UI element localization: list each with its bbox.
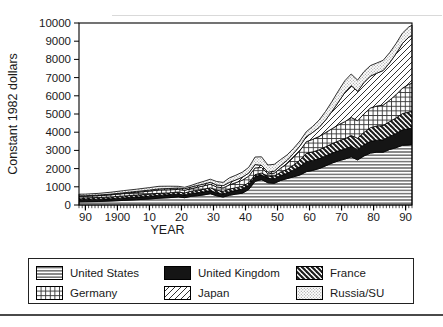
legend-label: United States — [70, 266, 139, 280]
bottom-rule-line — [0, 314, 443, 316]
y-tick-label: 0 — [65, 199, 71, 211]
x-tick-label: 90 — [79, 211, 92, 223]
legend-swatch — [36, 266, 63, 280]
y-tick-label: 9000 — [45, 35, 71, 47]
legend-item-japan: Japan — [164, 285, 229, 301]
legend-item-russia-su: Russia/SU — [296, 285, 384, 301]
figure: 0100020003000400050006000700080009000100… — [0, 0, 443, 327]
x-tick-label: 1900 — [105, 211, 131, 223]
y-tick-label: 6000 — [45, 90, 71, 102]
legend-item-france: France — [296, 265, 366, 281]
legend-label: Japan — [198, 286, 229, 300]
y-tick-label: 5000 — [45, 108, 71, 120]
x-tick-label: 50 — [271, 211, 284, 223]
legend-swatch — [296, 266, 323, 280]
x-tick-label: 70 — [335, 211, 348, 223]
x-tick-label: 60 — [303, 211, 316, 223]
x-tick-label: 80 — [367, 211, 380, 223]
legend-swatch — [36, 286, 63, 300]
legend-label: United Kingdom — [198, 266, 280, 280]
x-tick-label: 40 — [239, 211, 252, 223]
y-axis-label: Constant 1982 dollars — [6, 53, 20, 175]
legend-swatch — [296, 286, 323, 300]
stacked-area-chart-svg: 0100020003000400050006000700080009000100… — [0, 0, 443, 255]
y-tick-label: 10000 — [39, 17, 71, 29]
y-tick-label: 3000 — [45, 144, 71, 156]
x-axis-label: YEAR — [150, 223, 184, 237]
legend-item-germany: Germany — [36, 285, 117, 301]
y-tick-label: 7000 — [45, 72, 71, 84]
legend-label: Russia/SU — [330, 286, 384, 300]
x-tick-label: 30 — [207, 211, 220, 223]
legend-box: United StatesUnited KingdomFranceGermany… — [28, 258, 414, 304]
legend-swatch — [164, 286, 191, 300]
y-tick-label: 1000 — [45, 181, 71, 193]
x-tick-label: 20 — [175, 211, 188, 223]
y-tick-label: 4000 — [45, 126, 71, 138]
legend-item-united-kingdom: United Kingdom — [164, 265, 280, 281]
y-tick-label: 8000 — [45, 53, 71, 65]
legend-label: France — [330, 266, 366, 280]
x-tick-label: 10 — [143, 211, 156, 223]
y-tick-label: 2000 — [45, 163, 71, 175]
legend-swatch — [164, 266, 191, 280]
x-tick-label: 90 — [399, 211, 412, 223]
legend-item-united-states: United States — [36, 265, 139, 281]
legend-label: Germany — [70, 286, 117, 300]
